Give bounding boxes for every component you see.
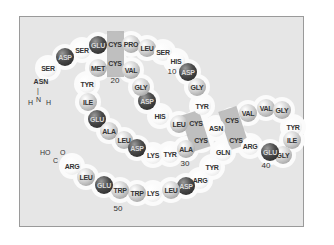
residue-gln: GLN bbox=[214, 143, 232, 161]
residue-his: HIS bbox=[151, 107, 169, 125]
residue-trp: TRP bbox=[128, 184, 146, 202]
residue-asp: ASP bbox=[56, 48, 74, 66]
residue-number-label: 50 bbox=[114, 204, 123, 213]
residue-gly: GLY bbox=[273, 101, 291, 119]
residue-cys: CYS bbox=[192, 131, 210, 149]
protein-chain-diagram: SERASPSERGLUCYSPROLEUSERHISASPGLYTYRCYSV… bbox=[0, 0, 334, 245]
residue-met: MET bbox=[89, 59, 107, 77]
residue-ser: SER bbox=[39, 59, 57, 77]
residue-glu: GLU bbox=[95, 176, 113, 194]
n-terminus-bond: | bbox=[37, 87, 39, 95]
residue-arg: ARG bbox=[63, 157, 81, 175]
residue-lys: LYS bbox=[144, 146, 162, 164]
residue-val: VAL bbox=[239, 104, 257, 122]
residue-asn: ASN bbox=[207, 119, 225, 137]
residue-cys: CYS bbox=[106, 54, 124, 72]
residue-leu: LEU bbox=[77, 168, 95, 186]
residue-glu: GLU bbox=[89, 36, 107, 54]
n-terminus-residue-label: ASN bbox=[34, 78, 49, 85]
n-terminus-n: N bbox=[36, 96, 41, 104]
n-terminus-h-left: H bbox=[28, 99, 33, 107]
c-terminus-ho: HO bbox=[40, 149, 51, 157]
c-terminus-o: O bbox=[60, 149, 65, 157]
residue-number-label: 40 bbox=[262, 161, 271, 170]
residue-gly: GLY bbox=[188, 78, 206, 96]
residue-lys: LYS bbox=[144, 184, 162, 202]
residue-glu: GLU bbox=[261, 143, 279, 161]
residue-pro: PRO bbox=[122, 35, 140, 53]
residue-ile: ILE bbox=[79, 93, 97, 111]
n-terminus-h-right: H bbox=[46, 99, 51, 107]
residue-leu: LEU bbox=[138, 39, 156, 57]
residue-number-label: 30 bbox=[181, 159, 190, 168]
residue-val: VAL bbox=[122, 61, 140, 79]
residue-number-label: 10 bbox=[168, 67, 177, 76]
residue-cys: CYS bbox=[187, 114, 205, 132]
residue-trp: TRP bbox=[111, 181, 129, 199]
residue-tyr: TYR bbox=[193, 97, 211, 115]
residue-leu: LEU bbox=[170, 115, 188, 133]
residue-tyr: TYR bbox=[78, 75, 96, 93]
c-terminus-c: C bbox=[53, 157, 58, 165]
residue-leu: LEU bbox=[162, 181, 180, 199]
residue-number-label: 20 bbox=[111, 76, 120, 85]
residue-gly: GLY bbox=[132, 78, 150, 96]
